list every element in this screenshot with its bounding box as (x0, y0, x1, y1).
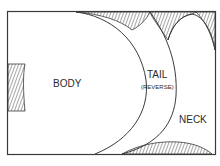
waste-top-right (196, 12, 215, 50)
label-tail: TAIL (147, 69, 168, 80)
waste-bottom-right (122, 142, 212, 154)
waste-left-edge (8, 64, 25, 111)
waste-top-middle (150, 12, 196, 40)
label-body: BODY (53, 78, 82, 89)
fabric-border (8, 12, 216, 155)
label-tail-reverse: (REVERSE) (141, 84, 174, 90)
label-neck: NECK (179, 114, 207, 125)
body-outline (76, 12, 147, 154)
pattern-layout-diagram: BODY TAIL (REVERSE) NECK (0, 0, 220, 166)
waste-top-left (76, 12, 150, 30)
